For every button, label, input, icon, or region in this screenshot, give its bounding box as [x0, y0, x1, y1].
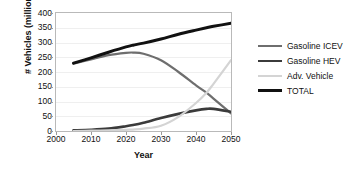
- y-tick-mark: [50, 102, 53, 103]
- legend-label: Gasoline ICEV: [287, 41, 343, 51]
- y-tick-mark: [50, 43, 53, 44]
- x-tick-label: 2000: [36, 134, 76, 144]
- series-line: [74, 52, 232, 113]
- y-tick-mark: [50, 28, 53, 29]
- x-tick-label: 2050: [211, 134, 251, 144]
- legend-item: TOTAL: [258, 83, 348, 98]
- y-tick-mark: [50, 131, 53, 132]
- x-tick-mark: [231, 132, 232, 135]
- legend-swatch-icon: [258, 60, 282, 62]
- legend-label: Adv. Vehicle: [287, 71, 333, 81]
- x-tick-mark: [126, 132, 127, 135]
- x-tick-mark: [161, 132, 162, 135]
- legend-item: Gasoline HEV: [258, 53, 348, 68]
- legend-label: TOTAL: [287, 86, 314, 96]
- legend-item: Gasoline ICEV: [258, 38, 348, 53]
- x-tick-mark: [56, 132, 57, 135]
- y-tick-mark: [50, 13, 53, 14]
- x-tick-label: 2040: [176, 134, 216, 144]
- y-tick-mark: [50, 57, 53, 58]
- chart-legend: Gasoline ICEVGasoline HEVAdv. VehicleTOT…: [258, 38, 348, 98]
- y-tick-mark: [50, 116, 53, 117]
- chart-figure: # Vehicles (millions) 050100150200250300…: [0, 0, 349, 176]
- series-lines: [56, 13, 231, 131]
- x-tick-label: 2030: [141, 134, 181, 144]
- legend-swatch-icon: [258, 75, 282, 77]
- x-axis-tick-labels: 200020102020203020402050: [0, 134, 349, 148]
- x-tick-mark: [196, 132, 197, 135]
- plot-area: [55, 12, 232, 132]
- y-tick-mark: [50, 72, 53, 73]
- x-axis-title: Year: [55, 150, 232, 160]
- x-tick-label: 2010: [71, 134, 111, 144]
- legend-swatch-icon: [258, 89, 282, 92]
- y-tick-mark: [50, 87, 53, 88]
- y-axis-tick-labels: 050100150200250300350400: [26, 0, 52, 176]
- legend-swatch-icon: [258, 45, 282, 47]
- legend-item: Adv. Vehicle: [258, 68, 348, 83]
- legend-label: Gasoline HEV: [287, 56, 340, 66]
- x-tick-mark: [91, 132, 92, 135]
- x-tick-label: 2020: [106, 134, 146, 144]
